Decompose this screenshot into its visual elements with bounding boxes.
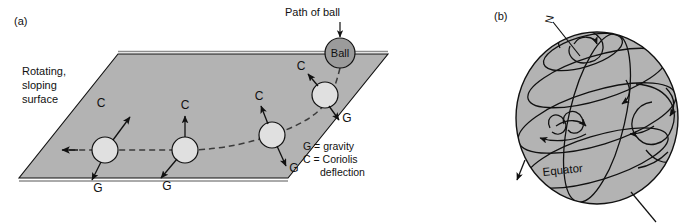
ball-marker	[312, 82, 338, 108]
globe-sphere	[516, 32, 678, 204]
key-line-coriolis: C = Coriolis	[303, 153, 358, 165]
coriolis-label-2: C	[181, 98, 190, 112]
panel-b-svg: (b) N Equator	[440, 0, 696, 224]
ball-label: Ball	[331, 47, 349, 59]
surface-label-line-1: Rotating,	[22, 65, 66, 77]
panel-a-tag: (a)	[14, 15, 27, 27]
gravity-label-1: G	[93, 181, 102, 195]
gravity-label-4: G	[342, 111, 351, 125]
gravity-label-2: G	[162, 179, 171, 193]
key-line-coriolis-cont: deflection	[320, 166, 365, 178]
bottom-leader-line	[631, 192, 656, 222]
coriolis-label-1: C	[97, 96, 106, 110]
panel-b-rotating-globe: (b) N Equator	[440, 0, 696, 224]
path-of-ball-label: Path of ball	[285, 6, 340, 18]
coriolis-label-3: C	[255, 89, 264, 103]
figure-root: (a) Rotating, sloping surface Path of ba…	[0, 0, 696, 224]
surface-label-line-2: sloping	[22, 79, 57, 91]
equator-direction-arrow	[517, 160, 525, 180]
coriolis-label-4: C	[297, 59, 306, 73]
surface-label-line-3: surface	[22, 93, 58, 105]
key-line-gravity: G = gravity	[303, 140, 355, 152]
ball-marker	[172, 137, 198, 163]
ball-marker	[259, 122, 285, 148]
gravity-label-3: G	[289, 161, 298, 175]
ball-marker	[92, 137, 118, 163]
panel-a-rotating-surface: (a) Rotating, sloping surface Path of ba…	[0, 0, 440, 224]
panel-a-svg: (a) Rotating, sloping surface Path of ba…	[0, 0, 440, 224]
north-pole-label: N	[542, 14, 555, 24]
panel-b-tag: (b)	[494, 10, 507, 22]
